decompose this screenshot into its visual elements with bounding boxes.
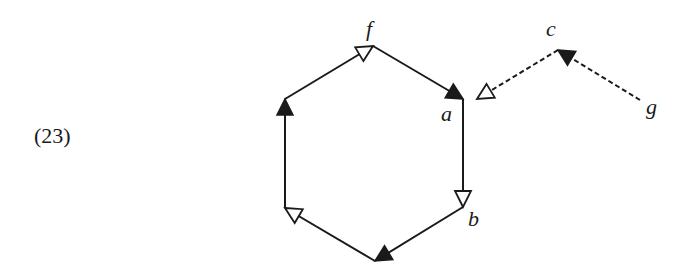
graph-edges: [285, 46, 640, 261]
open-arrowhead-icon: [455, 191, 471, 207]
node-label-a: a: [441, 101, 452, 126]
node-label-g: g: [646, 94, 657, 119]
directed-graph-diagram: (23) fabcg: [0, 0, 698, 280]
filled-arrowhead-icon: [558, 50, 576, 65]
node-label-c: c: [546, 16, 556, 41]
filled-arrowhead-icon: [277, 99, 293, 115]
node-label-b: b: [468, 206, 479, 231]
open-arrowhead-icon: [355, 46, 373, 61]
example-number: (23): [34, 123, 71, 148]
open-arrowhead-icon: [477, 84, 495, 99]
node-label-f: f: [366, 16, 375, 41]
open-arrowhead-icon: [285, 208, 303, 223]
filled-arrowhead-icon: [375, 246, 393, 261]
filled-arrowhead-icon: [445, 84, 463, 99]
node-labels: fabcg: [366, 16, 657, 231]
